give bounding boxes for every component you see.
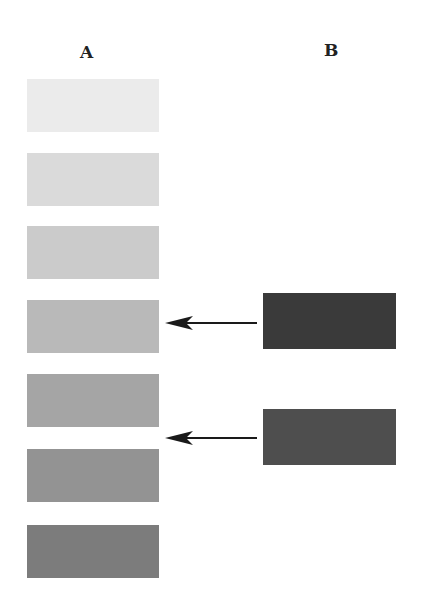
arrow-b2-to-a xyxy=(165,431,257,445)
arrow-b1-to-a xyxy=(165,316,257,330)
arrows xyxy=(0,0,424,604)
